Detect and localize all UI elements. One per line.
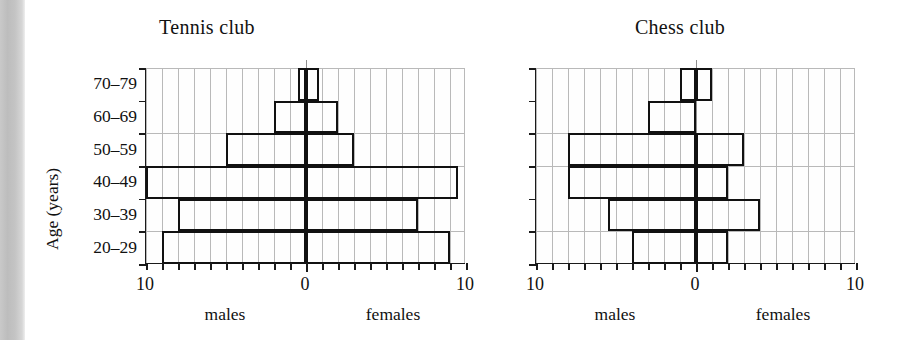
x-axis-tick: [146, 263, 148, 270]
x-axis-tick: [696, 263, 698, 272]
x-axis-tick: [370, 263, 372, 270]
x-axis-tick: [840, 263, 842, 270]
males-caption: males: [570, 304, 660, 325]
bar-chess-males-30–39: [608, 199, 696, 232]
y-axis-tick: [139, 264, 146, 266]
x-axis-tick: [600, 263, 602, 270]
females-caption: females: [738, 304, 828, 325]
plot-right-edge: [464, 68, 465, 263]
x-axis-tick: [776, 263, 778, 270]
y-axis-tick: [529, 101, 536, 103]
x-axis-tick: [354, 263, 356, 270]
x-axis-tick: [466, 263, 468, 270]
y-axis-label-30–39: 30–39: [47, 206, 137, 224]
x-axis-center-value: 0: [283, 274, 327, 295]
x-axis-tick: [728, 263, 730, 270]
y-axis-tick: [139, 133, 146, 135]
chess-plot-area: [535, 68, 855, 264]
x-axis-tick: [290, 263, 292, 270]
bar-tennis-males-20–29: [162, 231, 306, 264]
y-axis-tick: [529, 231, 536, 233]
y-axis-tick: [139, 68, 146, 70]
bar-tennis-females-20–29: [306, 231, 450, 264]
x-axis-tick: [744, 263, 746, 270]
y-axis-label-50–59: 50–59: [47, 141, 137, 159]
bar-tennis-females-50–59: [306, 133, 354, 166]
x-axis-tick: [632, 263, 634, 270]
x-axis-tick: [242, 263, 244, 270]
x-axis-tick: [162, 263, 164, 270]
x-axis-tick: [856, 263, 858, 270]
x-axis-tick: [418, 263, 420, 270]
bar-chess-males-60–69: [648, 101, 696, 134]
y-axis-tick: [529, 166, 536, 168]
x-axis-tick: [824, 263, 826, 270]
y-axis-tick: [529, 68, 536, 70]
bar-tennis-males-60–69: [274, 101, 306, 134]
y-axis-tick: [529, 264, 536, 266]
bar-chess-males-70–79: [680, 68, 696, 101]
bar-chess-females-70–79: [696, 68, 712, 101]
x-axis-tick: [338, 263, 340, 270]
x-axis-tick: [792, 263, 794, 270]
x-axis-left-value: 10: [123, 274, 167, 295]
x-axis-tick: [306, 263, 308, 272]
y-axis-tick: [139, 199, 146, 201]
y-axis-tick: [529, 199, 536, 201]
y-axis-tick: [139, 166, 146, 168]
x-axis-tick: [402, 263, 404, 270]
y-axis-tick: [139, 231, 146, 233]
x-axis-tick: [226, 263, 228, 270]
bar-chess-males-20–29: [632, 231, 696, 264]
plot-right-edge: [854, 68, 855, 263]
y-axis-label-70–79: 70–79: [47, 75, 137, 93]
bar-chess-males-50–59: [568, 133, 696, 166]
x-axis-tick: [664, 263, 666, 270]
males-caption: males: [180, 304, 270, 325]
bar-tennis-females-60–69: [306, 101, 338, 134]
x-axis-left-value: 10: [513, 274, 557, 295]
y-axis-tick: [139, 101, 146, 103]
bar-tennis-males-40–49: [146, 166, 306, 199]
bar-tennis-males-70–79: [298, 68, 306, 101]
x-axis-tick: [386, 263, 388, 270]
x-axis-tick: [178, 263, 180, 270]
y-axis-label-20–29: 20–29: [47, 239, 137, 257]
x-axis-tick: [274, 263, 276, 270]
x-axis-tick: [584, 263, 586, 270]
x-axis-tick: [808, 263, 810, 270]
bar-tennis-males-30–39: [178, 199, 306, 232]
bar-chess-females-30–39: [696, 199, 760, 232]
bar-chess-males-40–49: [568, 166, 696, 199]
x-axis-tick: [568, 263, 570, 270]
bar-chess-females-20–29: [696, 231, 728, 264]
x-axis-right-value: 10: [833, 274, 877, 295]
x-axis-tick: [536, 263, 538, 270]
x-axis-tick: [616, 263, 618, 270]
females-caption: females: [348, 304, 438, 325]
bar-chess-females-50–59: [696, 133, 744, 166]
x-axis-tick: [552, 263, 554, 270]
x-axis-tick: [258, 263, 260, 270]
y-axis-label-60–69: 60–69: [47, 108, 137, 126]
x-axis-tick: [194, 263, 196, 270]
y-axis-label-40–49: 40–49: [47, 173, 137, 191]
x-axis-tick: [712, 263, 714, 270]
x-axis-tick: [648, 263, 650, 270]
bar-tennis-females-40–49: [306, 166, 458, 199]
x-axis-tick: [760, 263, 762, 270]
chess-club-chart: Chess club 10 0 10 males females: [470, 0, 922, 340]
x-axis-tick: [680, 263, 682, 270]
bar-tennis-females-70–79: [306, 68, 319, 101]
bar-tennis-males-50–59: [226, 133, 306, 166]
x-axis-center-value: 0: [673, 274, 717, 295]
bar-chess-females-40–49: [696, 166, 728, 199]
tennis-club-chart: Tennis club Age (years) 20–2930–3940–495…: [0, 0, 470, 340]
figure-page: Tennis club Age (years) 20–2930–3940–495…: [0, 0, 922, 340]
x-axis-tick: [322, 263, 324, 270]
x-axis-tick: [450, 263, 452, 270]
x-axis-tick: [210, 263, 212, 270]
tennis-chart-title: Tennis club: [0, 16, 442, 39]
tennis-plot-area: [145, 68, 465, 264]
y-axis-tick: [529, 133, 536, 135]
